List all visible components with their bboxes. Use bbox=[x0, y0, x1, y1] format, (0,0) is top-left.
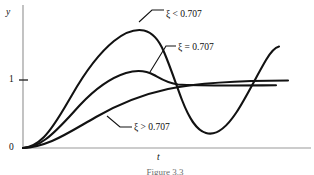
figure-step-response: y t 1 0 ξ < 0.707 ξ = 0.707 ξ > 0.707 Fi… bbox=[0, 0, 314, 175]
leader-underdamped bbox=[139, 10, 164, 22]
y-tick-label-1: 1 bbox=[9, 74, 14, 84]
y-tick-label-0: 0 bbox=[9, 142, 14, 152]
figure-caption: Figure 3.3 bbox=[125, 167, 205, 175]
y-axis-label: y bbox=[6, 7, 10, 17]
x-axis-label: t bbox=[157, 152, 160, 162]
leader-critical bbox=[150, 46, 176, 72]
plot-canvas bbox=[0, 0, 314, 175]
curve-label-overdamped: ξ > 0.707 bbox=[134, 122, 170, 132]
curve-label-critical: ξ = 0.707 bbox=[178, 42, 214, 52]
leader-overdamped bbox=[107, 116, 132, 127]
curve-label-underdamped: ξ < 0.707 bbox=[166, 9, 202, 19]
